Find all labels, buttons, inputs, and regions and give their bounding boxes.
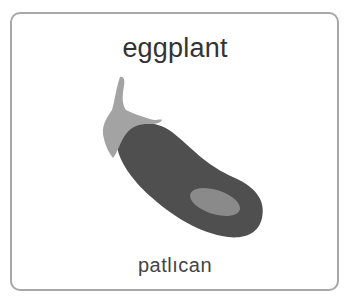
card-subtitle: patlıcan <box>0 254 350 277</box>
eggplant-body <box>117 122 263 237</box>
